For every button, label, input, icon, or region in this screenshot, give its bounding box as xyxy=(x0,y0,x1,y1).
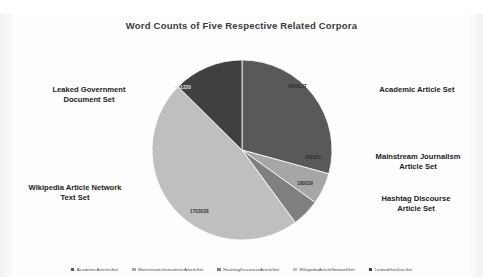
legend-label: WikipediaArticleNetworkSet xyxy=(299,267,354,272)
legend-swatch-icon xyxy=(71,268,75,272)
legend-label: HashtagDiscourseArticleSet xyxy=(223,267,279,272)
legend-item[interactable]: WikipediaArticleNetworkSet xyxy=(293,267,354,272)
callout-wikipedia-article-network-text-set: Wikipedia Article Network Text Set xyxy=(8,183,142,204)
legend-label: LeakedGovDocSet xyxy=(375,267,413,272)
legend-item[interactable]: HashtagDiscourseArticleSet xyxy=(217,267,279,272)
legend-item[interactable]: AcademicArticlesSet xyxy=(71,267,118,272)
chart-page: Word Counts of Five Respective Related C… xyxy=(0,0,483,277)
legend-label: MainstreamJournalisticArticleSet xyxy=(138,267,203,272)
slice-value-leaked: 451220 xyxy=(175,85,191,90)
legend-swatch-icon xyxy=(369,268,373,272)
legend-item[interactable]: MainstreamJournalisticArticleSet xyxy=(132,267,203,272)
slice-value-mainstream: 202352 xyxy=(305,155,321,160)
legend-swatch-icon xyxy=(293,268,297,272)
legend-swatch-icon xyxy=(132,268,136,272)
callout-hashtag-discourse-article-set: Hashtag Discourse Article Set xyxy=(356,194,476,215)
callout-leaked-government-document-set: Leaked Government Document Set xyxy=(28,85,150,106)
callout-mainstream-journalism-article-set: Mainstream Journalism Article Set xyxy=(356,152,480,173)
legend-item[interactable]: LeakedGovDocSet xyxy=(369,267,413,272)
legend-label: AcademicArticlesSet xyxy=(77,267,118,272)
slice-value-academic: 1049127 xyxy=(288,84,307,89)
legend-swatch-icon xyxy=(217,268,221,272)
pie-chart xyxy=(0,0,483,277)
callout-academic-article-set: Academic Article Set xyxy=(358,85,476,95)
chart-legend: AcademicArticlesSetMainstreamJournalisti… xyxy=(0,267,483,272)
slice-value-wikipedia: 1703038 xyxy=(190,209,209,214)
slice-value-hashtag: 180039 xyxy=(297,181,313,186)
